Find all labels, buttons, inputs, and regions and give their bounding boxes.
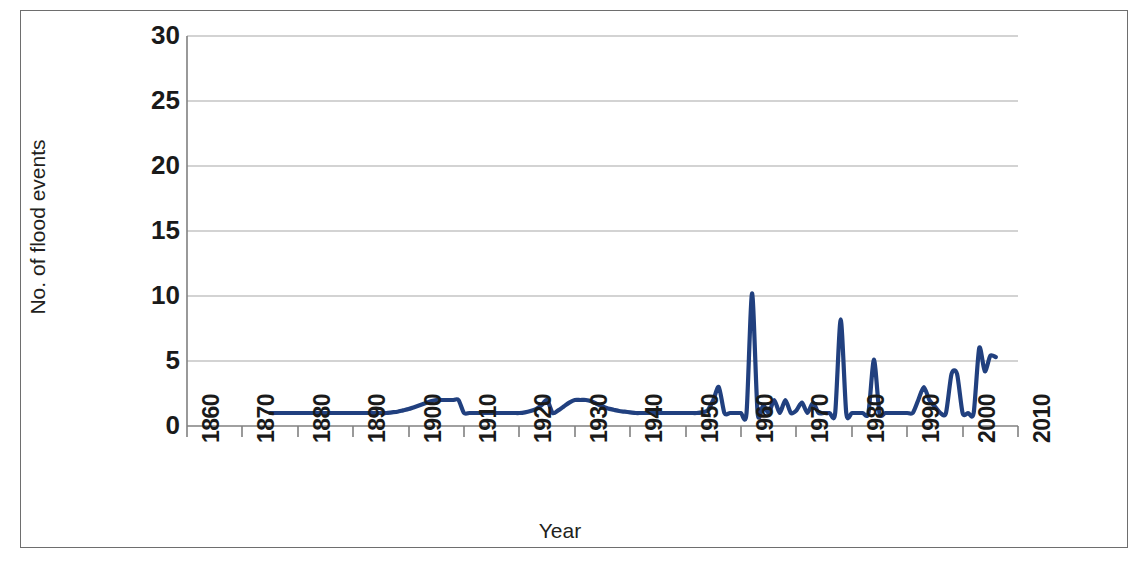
y-tick-5: 5 [136, 347, 180, 373]
x-tick-1960: 1960 [752, 394, 779, 443]
x-tick-1920: 1920 [530, 394, 557, 443]
x-tick-1940: 1940 [641, 394, 668, 443]
y-tick-25: 25 [136, 87, 180, 113]
y-tick-15: 15 [136, 217, 180, 243]
x-tick-1900: 1900 [420, 394, 447, 443]
x-tick-1910: 1910 [475, 394, 502, 443]
x-tick-1950: 1950 [697, 394, 724, 443]
y-tick-10: 10 [136, 282, 180, 308]
x-tick-1860: 1860 [198, 394, 225, 443]
x-tick-2010: 2010 [1029, 394, 1056, 443]
flood-events-line-chart: No. of flood events 30 25 20 15 10 5 0 [0, 0, 1140, 561]
x-tick-1880: 1880 [309, 394, 336, 443]
x-tick-1870: 1870 [253, 394, 280, 443]
x-tick-1970: 1970 [807, 394, 834, 443]
gridlines [187, 36, 1018, 361]
y-tick-0: 0 [136, 412, 180, 438]
y-tick-30: 30 [136, 22, 180, 48]
y-axis-title: No. of flood events [26, 97, 50, 357]
x-axis-title: Year [430, 519, 690, 543]
y-tick-20: 20 [136, 152, 180, 178]
x-tick-1930: 1930 [586, 394, 613, 443]
y-axis-tick-labels: 30 25 20 15 10 5 0 [92, 0, 180, 561]
x-tick-1890: 1890 [364, 394, 391, 443]
x-tick-1980: 1980 [863, 394, 890, 443]
x-tick-1990: 1990 [918, 394, 945, 443]
x-tick-2000: 2000 [974, 394, 1001, 443]
